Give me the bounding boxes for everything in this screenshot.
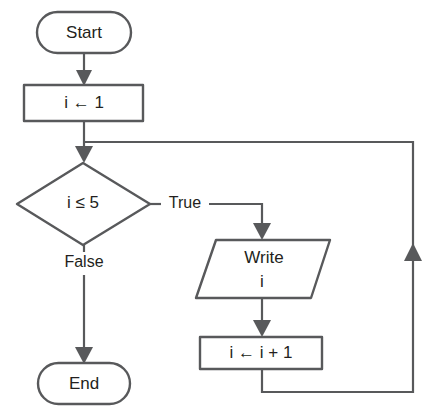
node-end[interactable]: End (38, 363, 130, 404)
edge-label-false: False (57, 252, 111, 275)
connector-write-to-increment (253, 298, 271, 337)
arrow-head-icon (75, 146, 93, 163)
node-write-label-line1: Write (244, 248, 283, 267)
flowchart-canvas: Start i ← 1 i ≤ 5 Write i i ← i + 1 End (0, 0, 426, 411)
edge-label-true-text: True (169, 194, 201, 211)
node-start-label: Start (66, 23, 102, 42)
arrow-head-icon (253, 320, 271, 337)
connector-start-to-init (76, 53, 92, 86)
edge-label-true: True (161, 193, 209, 215)
node-write[interactable]: Write i (196, 240, 330, 298)
arrow-head-icon (76, 70, 92, 86)
node-start[interactable]: Start (37, 12, 131, 53)
node-condition-label: i ≤ 5 (67, 193, 99, 212)
edge-label-false-text: False (64, 253, 103, 270)
node-increment-label: i ← i + 1 (230, 343, 293, 362)
flowchart-diagram: Start i ← 1 i ≤ 5 Write i i ← i + 1 End (0, 0, 426, 411)
node-end-label: End (69, 374, 99, 393)
arrow-head-icon (253, 223, 271, 240)
arrow-head-icon (75, 347, 93, 364)
node-condition[interactable]: i ≤ 5 (17, 163, 150, 245)
node-init[interactable]: i ← 1 (24, 85, 143, 121)
arrow-head-up-icon (404, 243, 422, 261)
node-increment[interactable]: i ← i + 1 (200, 337, 322, 369)
node-init-label: i ← 1 (64, 93, 104, 112)
node-write-label-line2: i (260, 272, 264, 291)
